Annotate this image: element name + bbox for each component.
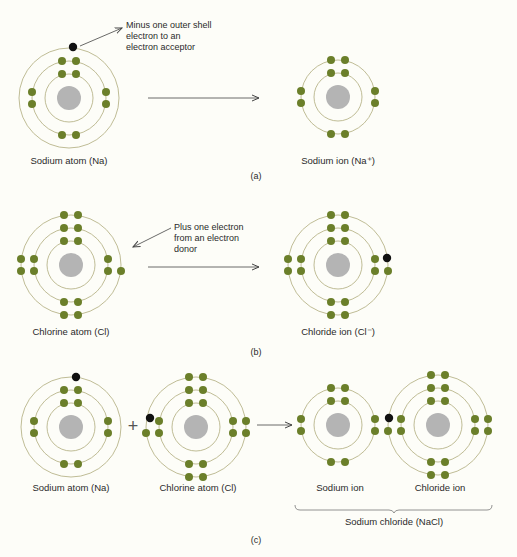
- electron: [102, 88, 110, 96]
- electron: [484, 415, 492, 423]
- panel-a: Minus one outer shell electron to an ele…: [30, 20, 374, 181]
- transferred-electron: [383, 254, 391, 262]
- atoms-layer: [17, 43, 492, 481]
- annotation-a-line3: electron acceptor: [126, 42, 195, 52]
- label-sodium-chloride: Sodium chloride (NaCl): [345, 516, 443, 527]
- electron: [327, 384, 335, 392]
- electron: [74, 311, 82, 319]
- electron: [297, 87, 305, 95]
- transferred-electron: [72, 373, 80, 381]
- annotation-arrow-a: [80, 28, 122, 46]
- electron: [327, 224, 335, 232]
- electron: [242, 417, 250, 425]
- electron: [441, 384, 449, 392]
- electron: [441, 371, 449, 379]
- electron: [327, 211, 335, 219]
- electron: [284, 267, 292, 275]
- ionic-bonding-diagram: Minus one outer shell electron to an ele…: [0, 0, 517, 557]
- sodium-atom-a: [19, 43, 119, 148]
- label-sodium-ion-a: Sodium ion (Na⁺): [301, 155, 375, 166]
- part-label-a: (a): [251, 171, 262, 181]
- electron: [341, 384, 349, 392]
- electron: [104, 267, 112, 275]
- electron: [427, 397, 435, 405]
- electron: [17, 255, 25, 263]
- electron: [30, 255, 38, 263]
- part-label-c: (c): [251, 535, 262, 545]
- annotation-a-line1: Minus one outer shell: [126, 20, 212, 30]
- plus-sign: +: [128, 416, 139, 436]
- electron: [74, 298, 82, 306]
- nucleus: [326, 253, 350, 277]
- electron: [427, 458, 435, 466]
- panel-c: + Sodium atom (Na) Chlorine atom (Cl) So…: [32, 416, 492, 545]
- electron: [327, 311, 335, 319]
- electron: [229, 417, 237, 425]
- electron: [341, 211, 349, 219]
- label-chlorine-atom-c: Chlorine atom (Cl): [159, 482, 236, 493]
- electron: [297, 267, 305, 275]
- electron: [371, 255, 379, 263]
- chloride-ion-b: [284, 211, 392, 319]
- nucleus: [59, 253, 83, 277]
- sodium-ion-c: [297, 384, 379, 466]
- electron: [341, 298, 349, 306]
- electron: [142, 429, 150, 437]
- electron: [297, 255, 305, 263]
- electron: [341, 56, 349, 64]
- electron: [104, 255, 112, 263]
- panel-b: Plus one electron from an electron donor…: [32, 222, 374, 357]
- chlorine-atom-b: [17, 211, 125, 319]
- electron: [60, 399, 68, 407]
- electron: [185, 473, 193, 481]
- electron: [327, 298, 335, 306]
- label-sodium-atom-c: Sodium atom (Na): [32, 482, 109, 493]
- electron: [30, 417, 38, 425]
- electron: [471, 415, 479, 423]
- electron: [60, 311, 68, 319]
- electron: [327, 397, 335, 405]
- electron: [72, 70, 80, 78]
- electron: [371, 99, 379, 107]
- sodium-ion-a: [297, 56, 379, 138]
- electron: [371, 267, 379, 275]
- electron: [185, 460, 193, 468]
- chlorine-atom-c: [142, 373, 250, 481]
- electron: [397, 427, 405, 435]
- label-chloride-ion-b: Chloride ion (Cl⁻): [301, 326, 375, 337]
- electron: [30, 267, 38, 275]
- electron: [427, 471, 435, 479]
- electron: [341, 224, 349, 232]
- annotation-arrow-b: [133, 228, 171, 247]
- electron: [117, 267, 125, 275]
- part-label-b: (b): [251, 347, 262, 357]
- electron: [58, 70, 66, 78]
- electron: [60, 211, 68, 219]
- electron: [384, 267, 392, 275]
- electron: [297, 427, 305, 435]
- nucleus: [326, 413, 350, 437]
- nucleus: [426, 413, 450, 437]
- electron: [284, 255, 292, 263]
- sodium-atom-c: [21, 373, 121, 477]
- electron: [199, 399, 207, 407]
- electron: [60, 460, 68, 468]
- electron: [28, 88, 36, 96]
- electron: [17, 267, 25, 275]
- label-chloride-ion-c: Chloride ion: [415, 482, 466, 493]
- electron: [74, 460, 82, 468]
- electron: [471, 427, 479, 435]
- electron: [327, 237, 335, 245]
- electron: [74, 386, 82, 394]
- electron: [371, 415, 379, 423]
- electron: [60, 224, 68, 232]
- annotation-a-line2: electron to an: [126, 31, 181, 41]
- electron: [371, 427, 379, 435]
- transferred-electron: [385, 414, 393, 422]
- electron: [58, 131, 66, 139]
- electron: [74, 211, 82, 219]
- electron: [104, 429, 112, 437]
- electron: [327, 69, 335, 77]
- electron: [60, 386, 68, 394]
- nucleus: [184, 415, 208, 439]
